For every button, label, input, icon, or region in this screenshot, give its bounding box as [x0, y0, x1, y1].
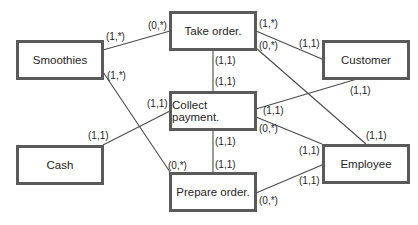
cardinality-take-customer: (1,*) [259, 19, 278, 29]
line-smoothies-prepare-order [103, 72, 170, 172]
relationship-collect-payment: Collect payment. [169, 91, 257, 131]
entity-employee: Employee [322, 144, 410, 184]
cardinality-employee-prepare: (1,1) [299, 176, 320, 186]
cardinality-employee-collect: (1,1) [299, 146, 320, 156]
cardinality-smoothies-take: (1,*) [106, 32, 125, 42]
entity-label: Smoothies [33, 54, 87, 66]
cardinality-cash-collect: (1,1) [88, 131, 109, 141]
cardinality-smoothies-prepare: (1,*) [107, 71, 126, 81]
cardinality-collect-prepare: (1,1) [215, 137, 236, 147]
cardinality-prepare-smoothies: (0,*) [168, 161, 187, 171]
entity-label: Customer [341, 54, 391, 66]
cardinality-collect-employee: (0,*) [259, 124, 278, 134]
cardinality-collect-cash: (1,1) [147, 99, 168, 109]
cardinality-employee-take: (1,1) [366, 131, 387, 141]
entity-label: Employee [340, 158, 391, 170]
entity-smoothies: Smoothies [16, 40, 104, 80]
entity-label: Prepare order. [176, 186, 250, 198]
relationship-prepare-order: Prepare order. [169, 172, 257, 212]
entity-cash: Cash [16, 145, 104, 185]
cardinality-customer-collect: (1,1) [350, 86, 371, 96]
cardinality-take-collect: (1,1) [215, 56, 236, 66]
cardinality-collect-customer: (1,1) [263, 106, 284, 116]
entity-label: Cash [47, 159, 74, 171]
relationship-take-order: Take order. [169, 11, 257, 51]
cardinality-customer-take: (1,1) [299, 39, 320, 49]
cardinality-take-employee: (0,*) [259, 41, 278, 51]
entity-label: Collect payment. [172, 99, 254, 123]
line-cash-collect-payment [103, 111, 170, 145]
cardinality-prepare-collect: (1,1) [215, 160, 236, 170]
cardinality-collect-take: (1,1) [215, 77, 236, 87]
entity-customer: Customer [322, 40, 410, 80]
cardinality-take-smoothies: (0,*) [148, 21, 167, 31]
er-diagram: Smoothies Take order. Customer Collect p… [0, 0, 418, 225]
cardinality-prepare-employee: (0,*) [259, 196, 278, 206]
entity-label: Take order. [185, 25, 242, 37]
